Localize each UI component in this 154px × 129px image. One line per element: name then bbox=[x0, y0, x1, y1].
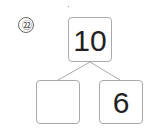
answer-box-left[interactable] bbox=[36, 80, 80, 124]
top-number-box: 10 bbox=[68, 17, 112, 62]
bottom-right-number-box: 6 bbox=[99, 80, 143, 124]
